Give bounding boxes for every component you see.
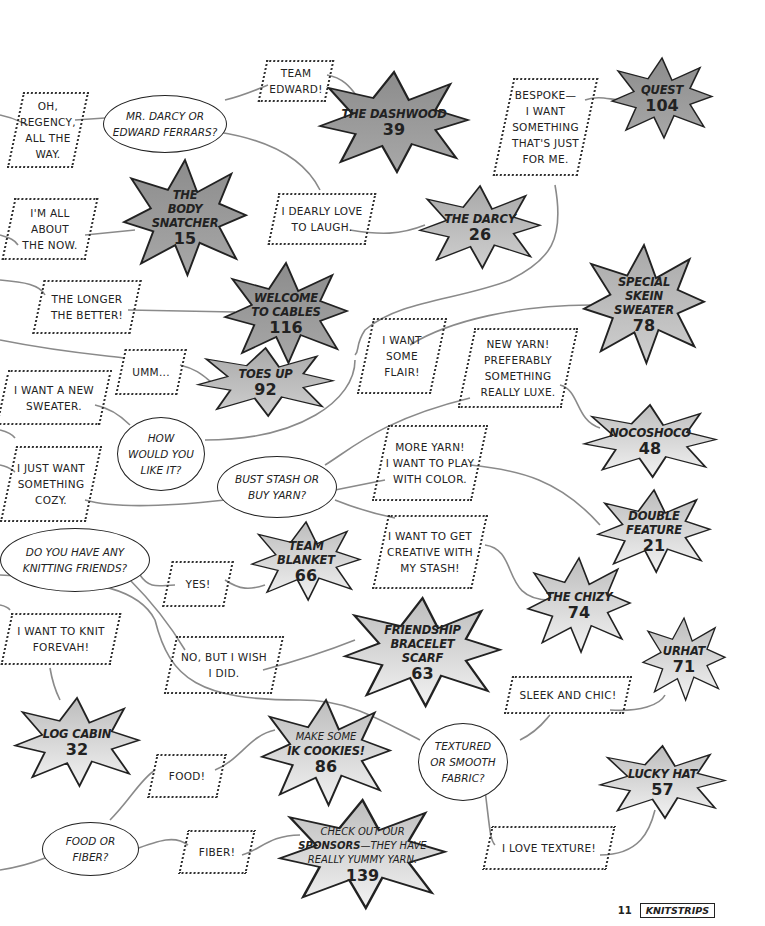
answer-knit-forevah: I want to knit forevah!	[6, 613, 116, 665]
question-text: Bust stash or buy yarn?	[235, 471, 319, 503]
answer-about-the-now: I'm all about the now.	[8, 198, 92, 260]
answer-sleek-and-chic: Sleek and chic!	[508, 676, 628, 714]
answer-love-to-laugh: I dearly love to laugh.	[273, 193, 371, 245]
result-special-skein-sweater[interactable]: Special Skein Sweater78	[584, 245, 704, 363]
question-text: Textured or smooth fabric?	[430, 738, 495, 786]
answer-new-sweater: I want a new sweater.	[2, 370, 106, 425]
result-log-cabin[interactable]: Log Cabin32	[15, 698, 139, 786]
answer-play-with-color: More yarn! I want to play with color.	[380, 425, 480, 501]
question-text: Mr. Darcy or Edward Ferrars?	[113, 108, 217, 140]
question-text: How would you like it?	[128, 430, 194, 478]
answer-longer-the-better: The longer the better!	[38, 280, 136, 334]
question-text: Do you have any knitting friends?	[23, 544, 127, 576]
result-urhat[interactable]: Urhat71	[643, 618, 725, 700]
answer-bespoke: Bespoke— I want something that's just fo…	[503, 78, 588, 176]
result-nocoshoco[interactable]: Nocoshoco48	[584, 405, 716, 477]
answer-yes: Yes!	[167, 561, 229, 607]
question-bust-stash-or-buy-yarn: Bust stash or buy yarn?	[217, 456, 337, 518]
answer-regency: Oh, Regency, all the way.	[15, 92, 81, 168]
result-the-body-snatcher[interactable]: The Body Snatcher15	[124, 160, 246, 275]
result-check-out-our-sponsors[interactable]: Check out our Sponsors—they have really …	[280, 800, 445, 908]
answer-new-yarn-luxe: New yarn! preferably something really lu…	[466, 328, 570, 408]
result-the-darcy[interactable]: The Darcy26	[420, 186, 540, 268]
result-the-chizy[interactable]: The Chizy74	[528, 558, 630, 652]
question-knitting-friends: Do you have any knitting friends?	[0, 528, 150, 592]
result-make-some-ik-cookies[interactable]: Make some IK Cookies! 86	[262, 700, 390, 805]
question-darcy-or-ferrars: Mr. Darcy or Edward Ferrars?	[103, 95, 227, 153]
answer-umm: Umm...	[120, 349, 182, 395]
page-number: 11	[618, 905, 632, 916]
answer-fiber: Fiber!	[183, 830, 251, 874]
question-how-would-you-like-it: How would you like it?	[117, 417, 205, 491]
answer-love-texture: I love texture!	[487, 826, 611, 870]
brand-label: KNITSTRIPS	[640, 903, 715, 918]
answer-something-cozy: I just want something cozy.	[8, 446, 94, 522]
question-food-or-fiber: Food or fiber?	[42, 822, 139, 876]
question-textured-or-smooth: Textured or smooth fabric?	[418, 723, 508, 801]
answer-creative-with-stash: I want to get creative with my stash!	[380, 515, 480, 589]
result-lucky-hat[interactable]: Lucky Hat57	[600, 746, 725, 818]
answer-some-flair: I want some flair!	[365, 318, 439, 394]
page-footer: 11 KNITSTRIPS	[618, 903, 715, 918]
answer-wish-i-did: No, but I wish I did.	[170, 636, 278, 694]
result-friendship-bracelet-scarf[interactable]: Friendship Bracelet Scarf63	[345, 598, 500, 706]
result-team-blanket[interactable]: Team Blanket66	[252, 522, 360, 600]
result-the-dashwood[interactable]: The Dashwood39	[320, 72, 468, 172]
result-toes-up[interactable]: Toes Up92	[198, 348, 333, 416]
result-quest[interactable]: Quest104	[612, 58, 712, 138]
answer-food: Food!	[152, 754, 222, 798]
question-text: Food or fiber?	[66, 833, 116, 865]
